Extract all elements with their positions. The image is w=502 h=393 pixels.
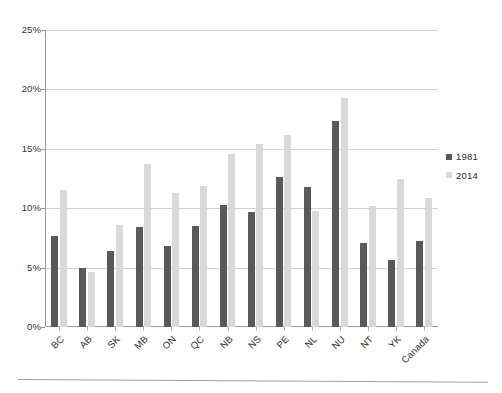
x-axis-label-yk: YK	[387, 334, 403, 350]
bar-nl-1981	[304, 187, 311, 327]
bar-group	[270, 30, 298, 327]
x-axis-label-cell: NS	[242, 332, 270, 378]
x-axis-label-cell: PE	[270, 332, 298, 378]
bar-on-1981	[164, 246, 171, 327]
x-axis-label-cell: SK	[101, 332, 129, 378]
x-axis-label-ab: AB	[78, 334, 94, 350]
bar-ab-1981	[79, 268, 86, 327]
x-axis-tick-mark	[312, 327, 313, 331]
x-axis-tick-mark	[340, 327, 341, 331]
bar-nt-1981	[360, 243, 367, 327]
bar-on-2014	[172, 193, 179, 327]
x-axis-label-cell: ON	[157, 332, 185, 378]
bar-group	[185, 30, 213, 327]
x-axis-label-cell: AB	[73, 332, 101, 378]
bar-nb-2014	[228, 154, 235, 327]
bar-nu-1981	[332, 121, 339, 327]
x-axis-label-cell: NL	[298, 332, 326, 378]
y-axis-tick-label: 0%	[5, 322, 41, 332]
x-axis-tick-mark	[199, 327, 200, 331]
x-axis-label-cell: BC	[45, 332, 73, 378]
bar-qc-1981	[192, 226, 199, 327]
bar-bc-1981	[51, 236, 58, 327]
bar-bc-2014	[60, 190, 67, 327]
x-axis-label-cell: NU	[326, 332, 354, 378]
bar-nl-2014	[312, 211, 319, 327]
bar-group	[129, 30, 157, 327]
x-axis-label-qc: QC	[189, 334, 206, 351]
bar-group	[213, 30, 241, 327]
bar-nb-1981	[220, 205, 227, 327]
bar-series-container	[45, 30, 438, 327]
bar-chart-figure: 0%5%10%15%20%25% BCABSKMBONQCNBNSPENLNUN…	[0, 0, 502, 393]
bar-ns-1981	[248, 212, 255, 327]
bar-group	[410, 30, 438, 327]
x-axis-tick-mark	[143, 327, 144, 331]
x-axis-label-cell: Canada	[410, 332, 438, 378]
bar-ns-2014	[256, 144, 263, 327]
bar-sk-2014	[116, 225, 123, 327]
x-axis-label-pe: PE	[274, 334, 290, 350]
bar-mb-2014	[144, 164, 151, 327]
legend-swatch-icon	[446, 154, 452, 160]
legend-item-1981: 1981	[446, 152, 478, 162]
x-axis-tick-mark	[396, 327, 397, 331]
x-axis-label-nt: NT	[359, 334, 375, 350]
x-axis-label-nl: NL	[303, 334, 319, 350]
bar-yk-1981	[388, 260, 395, 327]
bar-group	[101, 30, 129, 327]
legend-label: 2014	[456, 171, 478, 181]
bar-canada-1981	[416, 241, 423, 327]
x-axis-label-cell: NT	[354, 332, 382, 378]
x-axis-label-sk: SK	[106, 334, 122, 350]
bar-pe-2014	[284, 135, 291, 327]
bar-nt-2014	[369, 206, 376, 327]
bar-group	[45, 30, 73, 327]
bar-pe-1981	[276, 177, 283, 327]
y-axis-tick-label: 5%	[5, 263, 41, 273]
x-axis-tick-mark	[256, 327, 257, 331]
x-axis-labels: BCABSKMBONQCNBNSPENLNUNTYKCanada	[45, 332, 438, 378]
bar-group	[157, 30, 185, 327]
x-axis-tick-mark	[228, 327, 229, 331]
x-axis-label-on: ON	[161, 334, 178, 351]
bar-group	[354, 30, 382, 327]
y-axis-tick-label: 20%	[5, 84, 41, 94]
x-axis-tick-mark	[171, 327, 172, 331]
bar-group	[73, 30, 101, 327]
bar-group	[382, 30, 410, 327]
chart-legend: 19812014	[446, 152, 478, 189]
x-axis-tick-mark	[284, 327, 285, 331]
bar-mb-1981	[136, 227, 143, 327]
bar-group	[298, 30, 326, 327]
x-axis-label-cell: NB	[213, 332, 241, 378]
y-axis-tick-label: 25%	[5, 25, 41, 35]
bar-yk-2014	[397, 179, 404, 328]
bar-qc-2014	[200, 186, 207, 327]
x-axis-tick-mark	[368, 327, 369, 331]
legend-item-2014: 2014	[446, 171, 478, 181]
bottom-divider	[18, 379, 488, 383]
legend-swatch-icon	[446, 172, 452, 178]
x-axis-label-cell: MB	[129, 332, 157, 378]
bar-group	[242, 30, 270, 327]
y-axis-tick-label: 15%	[5, 144, 41, 154]
x-axis-label-mb: MB	[133, 334, 150, 351]
x-axis-tick-mark	[115, 327, 116, 331]
x-axis-label-ns: NS	[246, 334, 262, 350]
legend-label: 1981	[456, 152, 478, 162]
bar-group	[326, 30, 354, 327]
x-axis-label-cell: QC	[185, 332, 213, 378]
x-axis-tick-mark	[87, 327, 88, 331]
bar-canada-2014	[425, 198, 432, 327]
bar-nu-2014	[341, 98, 348, 327]
bar-sk-1981	[107, 251, 114, 327]
bar-ab-2014	[88, 272, 95, 327]
x-axis-tick-mark	[59, 327, 60, 331]
x-axis-label-nu: NU	[330, 334, 347, 351]
y-axis-tick-label: 10%	[5, 203, 41, 213]
x-axis-label-nb: NB	[218, 334, 234, 350]
x-axis-tick-mark	[424, 327, 425, 331]
x-axis-label-bc: BC	[49, 334, 65, 350]
